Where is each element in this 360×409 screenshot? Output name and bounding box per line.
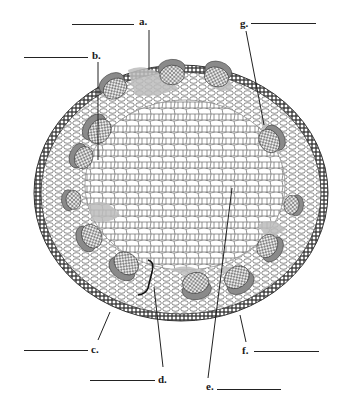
answer-blank-b[interactable] [24, 57, 88, 58]
pith [85, 100, 285, 270]
answer-blank-d[interactable] [90, 380, 155, 381]
answer-blank-g[interactable] [251, 23, 316, 24]
pointer-line-f [240, 315, 246, 342]
label-d: d. [158, 374, 167, 385]
label-c: c. [91, 344, 99, 355]
pointer-line-c [98, 312, 110, 340]
label-b: b. [92, 50, 101, 61]
label-g: g. [240, 18, 248, 29]
answer-blank-f[interactable] [254, 351, 319, 352]
label-f: f. [242, 345, 248, 356]
label-e: e. [206, 381, 214, 392]
stem-cross-section-diagram [0, 0, 360, 409]
answer-blank-a[interactable] [72, 24, 134, 25]
answer-blank-e[interactable] [217, 389, 281, 390]
answer-blank-c[interactable] [24, 350, 88, 351]
label-a: a. [139, 16, 147, 27]
